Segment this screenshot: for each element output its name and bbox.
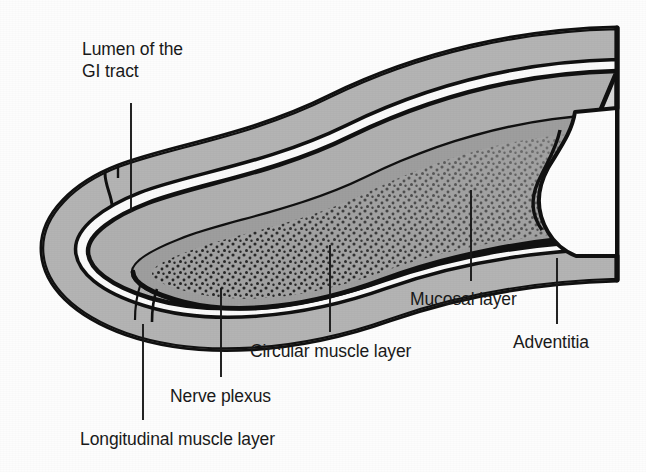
label-mucosal-layer: Mucosal layer xyxy=(410,289,517,310)
label-adventitia: Adventitia xyxy=(513,332,589,353)
label-circular-muscle-layer: Circular muscle layer xyxy=(250,341,411,362)
label-nerve-plexus: Nerve plexus xyxy=(170,386,271,407)
label-lumen-line-2: GI tract xyxy=(82,61,139,81)
label-lumen-of-the-gi-tract: Lumen of the GI tract xyxy=(82,38,232,82)
label-longitudinal-muscle-layer: Longitudinal muscle layer xyxy=(80,429,275,450)
label-lumen-line-1: Lumen of the xyxy=(82,39,183,59)
gi-tract-diagram: Lumen of the GI tract Longitudinal muscl… xyxy=(0,0,646,472)
